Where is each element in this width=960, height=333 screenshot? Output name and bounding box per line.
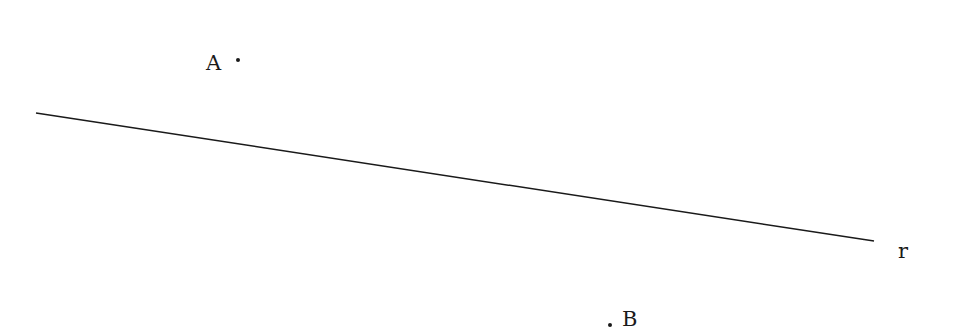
- point-b: [608, 323, 612, 327]
- point-a: [236, 58, 240, 62]
- point-b-label: B: [622, 307, 637, 331]
- line-r-label: r: [898, 239, 909, 263]
- geometry-diagram: r A B: [0, 0, 960, 333]
- point-a-label: A: [205, 51, 222, 75]
- line-r: [36, 113, 874, 241]
